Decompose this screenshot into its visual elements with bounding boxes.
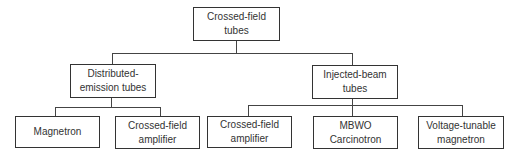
node-label-line: emission tubes (80, 81, 147, 95)
connector-to-distributed (112, 53, 113, 64)
node-label-line: tubes (207, 24, 266, 38)
connector-level1-horizontal (112, 53, 353, 54)
node-label-line: Voltage-tunable (426, 119, 496, 133)
node-label-line: tubes (323, 82, 386, 96)
node-crossed-field-amplifier-injected: Crossed-field amplifier (207, 116, 292, 148)
connector-to-voltage-tunable (462, 105, 463, 116)
crossed-field-tubes-tree-diagram: Crossed-field tubes Distributed- emissio… (0, 0, 515, 159)
node-injected-beam-tubes: Injected-beam tubes (312, 65, 398, 99)
connector-injected-down (352, 98, 353, 105)
node-label-line: MBWO (330, 119, 382, 133)
node-distributed-emission-tubes: Distributed- emission tubes (70, 64, 156, 98)
node-label-line: Distributed- (80, 67, 147, 81)
node-label-line: Crossed-field (220, 118, 279, 132)
node-label-line: Crossed-field (128, 119, 187, 133)
node-label-line: Injected-beam (323, 68, 386, 82)
node-label-line: amplifier (220, 132, 279, 146)
node-voltage-tunable-magnetron: Voltage-tunable magnetron (418, 116, 504, 149)
connector-distributed-down (111, 97, 112, 107)
connector-to-mbwo (352, 105, 353, 116)
node-magnetron: Magnetron (15, 116, 100, 148)
connector-root-down (236, 41, 237, 53)
connector-level2-left-horizontal (55, 107, 161, 108)
node-label-line: Magnetron (34, 125, 82, 139)
connector-level2-right-horizontal (248, 105, 463, 106)
connector-to-crossed-field-amplifier-right (248, 105, 249, 116)
node-label-line: magnetron (426, 133, 496, 147)
node-label-line: amplifier (128, 133, 187, 147)
connector-to-crossed-field-amplifier-left (160, 107, 161, 116)
node-crossed-field-amplifier-distributed: Crossed-field amplifier (115, 116, 200, 149)
node-mbwo-carcinotron: MBWO Carcinotron (313, 116, 398, 149)
node-label-line: Carcinotron (330, 133, 382, 147)
node-crossed-field-tubes: Crossed-field tubes (193, 7, 280, 41)
connector-to-injected (352, 53, 353, 65)
connector-to-magnetron (55, 107, 56, 116)
node-label-line: Crossed-field (207, 10, 266, 24)
